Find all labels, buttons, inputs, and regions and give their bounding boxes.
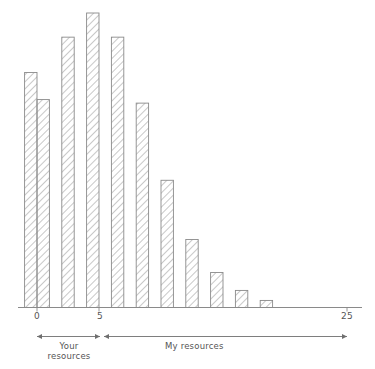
annotation-brackets — [37, 334, 347, 339]
your-resources-label-line1: Your — [38, 341, 100, 352]
bar — [37, 100, 49, 308]
bar-rect — [211, 272, 223, 307]
bar-rect — [136, 103, 148, 307]
bar-rect — [37, 100, 49, 308]
bar-rect — [25, 72, 37, 307]
chart-canvas — [0, 0, 375, 369]
x-tick-label-25: 25 — [337, 311, 357, 322]
bar-rect — [161, 180, 173, 307]
histogram-chart: 0 5 25 Your resources My resources — [0, 0, 375, 369]
x-tick-label-5: 5 — [90, 311, 110, 322]
bar — [260, 300, 272, 307]
your-resources-bracket — [37, 334, 100, 339]
bar — [161, 180, 173, 307]
bar-rect — [62, 37, 74, 307]
bars-group — [25, 13, 273, 308]
bar — [87, 13, 99, 308]
my-resources-bracket — [104, 334, 347, 339]
bar — [25, 72, 37, 307]
your-resources-label-line2: resources — [38, 351, 100, 362]
my-resources-label: My resources — [165, 341, 285, 352]
bar — [211, 272, 223, 307]
bar — [186, 239, 198, 307]
bar-rect — [260, 300, 272, 307]
bar — [235, 290, 247, 307]
bar — [111, 37, 123, 307]
x-axis — [18, 308, 362, 312]
bar — [136, 103, 148, 307]
x-axis-ticks — [37, 308, 347, 312]
bar-rect — [235, 290, 247, 307]
bar-rect — [186, 239, 198, 307]
bar-rect — [87, 13, 99, 308]
bar — [62, 37, 74, 307]
bar-rect — [111, 37, 123, 307]
x-tick-label-0: 0 — [27, 311, 47, 322]
